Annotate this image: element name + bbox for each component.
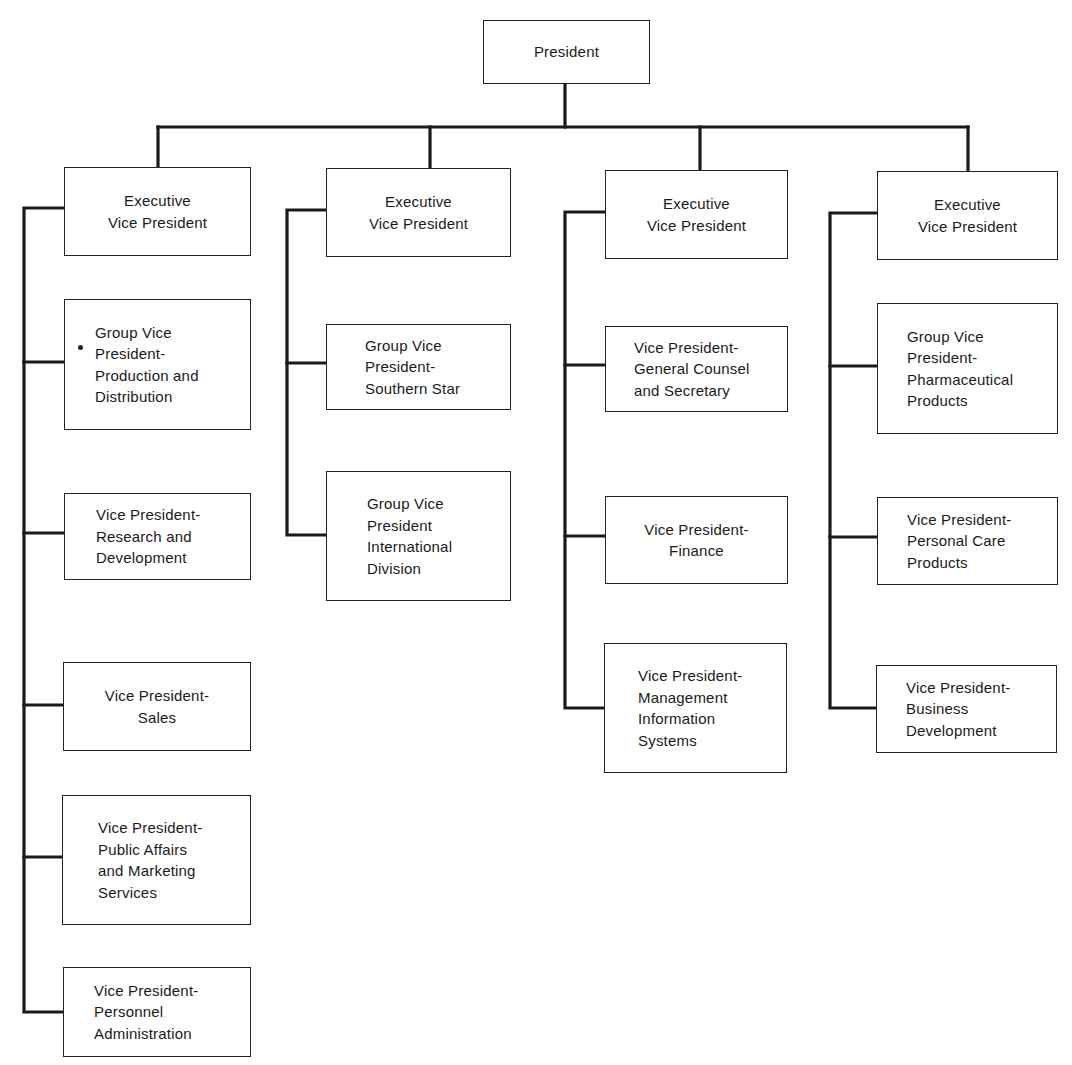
executive-vp-box-4: Executive Vice President (877, 171, 1058, 260)
report-label: Group Vice President- Production and Dis… (95, 322, 199, 408)
vp-personal-care-products-box: Vice President- Personal Care Products (877, 497, 1058, 585)
report-label: Vice President- Finance (644, 519, 748, 562)
report-label: Vice President- Research and Development (96, 504, 200, 569)
executive-vp-box-1: Executive Vice President (64, 167, 251, 256)
executive-vp-box-2: Executive Vice President (326, 168, 511, 257)
president-box: President (483, 20, 650, 84)
group-vp-international-division-box: Group Vice President International Divis… (326, 471, 511, 601)
vp-finance-box: Vice President- Finance (605, 496, 788, 584)
report-label: Vice President- General Counsel and Secr… (634, 337, 750, 402)
executive-vp-label: Executive Vice President (108, 190, 207, 233)
vp-sales-box: Vice President- Sales (63, 662, 251, 751)
report-label: Group Vice President- Pharmaceutical Pro… (907, 326, 1013, 412)
executive-vp-box-3: Executive Vice President (605, 170, 788, 259)
report-label: Group Vice President International Divis… (367, 493, 452, 579)
bullet-mark (78, 345, 83, 350)
group-vp-southern-star-box: Group Vice President- Southern Star (326, 324, 511, 410)
report-label: Vice President- Public Affairs and Marke… (98, 817, 202, 903)
report-label: Vice President- Personal Care Products (907, 509, 1011, 574)
executive-vp-label: Executive Vice President (918, 194, 1017, 237)
report-label: Group Vice President- Southern Star (365, 335, 460, 400)
report-label: Vice President- Business Development (906, 677, 1010, 742)
vp-management-information-systems-box: Vice President- Management Information S… (604, 643, 787, 773)
vp-general-counsel-secretary-box: Vice President- General Counsel and Secr… (605, 326, 788, 412)
executive-vp-label: Executive Vice President (369, 191, 468, 234)
group-vp-production-distribution-box: Group Vice President- Production and Dis… (64, 299, 251, 430)
report-label: Vice President- Personnel Administration (94, 980, 198, 1045)
executive-vp-label: Executive Vice President (647, 193, 746, 236)
vp-public-affairs-marketing-box: Vice President- Public Affairs and Marke… (62, 795, 251, 925)
vp-business-development-box: Vice President- Business Development (876, 665, 1057, 753)
report-label: Vice President- Sales (105, 685, 209, 728)
president-label: President (534, 41, 599, 63)
vp-personnel-administration-box: Vice President- Personnel Administration (63, 967, 251, 1057)
group-vp-pharmaceutical-products-box: Group Vice President- Pharmaceutical Pro… (877, 303, 1058, 434)
report-label: Vice President- Management Information S… (638, 665, 742, 751)
vp-research-development-box: Vice President- Research and Development (64, 493, 251, 580)
